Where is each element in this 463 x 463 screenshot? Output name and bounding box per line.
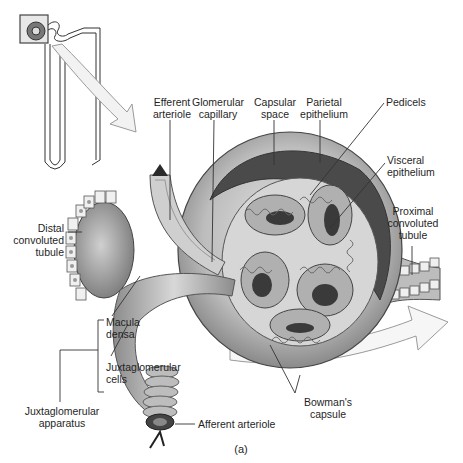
- label-juxtaglomerular-cells: Juxtaglomerular cells: [106, 361, 181, 385]
- label-proximal-convoluted-tubule: Proximal convoluted tubule: [383, 205, 443, 241]
- renal-corpuscle-figure: Efferent arteriole Glomerular capillary …: [0, 0, 463, 463]
- afferent-flow-arrow-icon: [150, 432, 164, 448]
- bowmans-capsule-art: [178, 132, 402, 368]
- label-capsular-space: Capsular space: [250, 96, 300, 120]
- efferent-flow-arrow-icon: [152, 164, 168, 176]
- panel-label: (a): [226, 443, 256, 455]
- label-bowmans-capsule: Bowman's capsule: [300, 396, 356, 420]
- label-pedicels: Pedicels: [386, 96, 426, 108]
- label-parietal-epithelium: Parietal epithelium: [296, 96, 352, 120]
- label-juxtaglomerular-apparatus: Juxtaglomerular apparatus: [20, 405, 104, 429]
- label-visceral-epithelium: Visceral epithelium: [387, 154, 435, 178]
- nephron-inset: [20, 15, 100, 169]
- label-glomerular-capillary: Glomerular capillary: [188, 96, 248, 120]
- label-macula-densa: Macula densa: [106, 316, 140, 340]
- label-distal-convoluted-tubule: Distal convoluted tubule: [6, 222, 64, 258]
- distal-tubule-art: [66, 191, 134, 300]
- label-afferent-arteriole: Afferent arteriole: [198, 418, 275, 430]
